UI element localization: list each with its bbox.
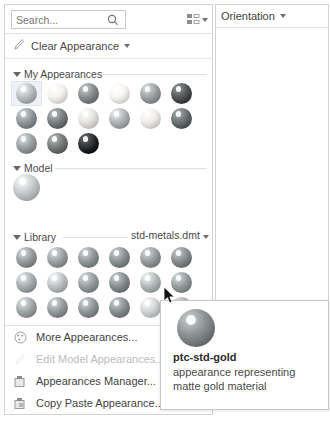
- section-label-model: Model: [24, 162, 53, 174]
- chevron-down-icon[interactable]: [203, 235, 209, 239]
- sphere-preview: [109, 108, 130, 129]
- sphere-preview: [13, 174, 40, 201]
- triangle-down-icon: [13, 72, 21, 77]
- sphere-preview: [78, 133, 99, 154]
- sphere-preview: [140, 272, 161, 293]
- clear-appearance-button[interactable]: Clear Appearance: [5, 34, 212, 59]
- sphere-preview: [78, 272, 99, 293]
- orientation-pane: [215, 28, 329, 311]
- appearance-swatch[interactable]: [42, 106, 73, 131]
- appearance-swatch[interactable]: [11, 81, 42, 106]
- section-header-library[interactable]: Library: [9, 230, 56, 244]
- sphere-preview: [16, 272, 37, 293]
- appearance-swatch[interactable]: [166, 245, 197, 270]
- model-grid[interactable]: [11, 175, 207, 200]
- sphere-preview: [16, 247, 37, 268]
- sphere-preview: [78, 108, 99, 129]
- view-layout-icon: [187, 11, 200, 29]
- appearance-swatch[interactable]: [42, 270, 73, 295]
- appearance-swatch[interactable]: [166, 270, 197, 295]
- tooltip-description: appearance representing matte gold mater…: [173, 365, 320, 393]
- tooltip-title: ptc-std-gold: [173, 351, 320, 363]
- search-box[interactable]: [11, 10, 126, 29]
- search-input[interactable]: [12, 11, 104, 28]
- sphere-preview: [16, 133, 37, 154]
- chevron-down-icon: [202, 18, 208, 22]
- view-options-button[interactable]: [187, 12, 211, 27]
- edit-brush-icon: [13, 352, 28, 367]
- search-icon[interactable]: [104, 11, 122, 28]
- appearance-swatch[interactable]: [11, 270, 42, 295]
- section-label-library: Library: [24, 231, 56, 243]
- sphere-preview: [16, 297, 37, 318]
- appearance-swatch[interactable]: [11, 131, 42, 156]
- appearance-swatch[interactable]: [73, 131, 104, 156]
- sphere-preview: [140, 83, 161, 104]
- appearance-swatch[interactable]: [166, 81, 197, 106]
- sphere-preview: [171, 272, 192, 293]
- appearance-swatch[interactable]: [135, 270, 166, 295]
- copy-paste-icon: [13, 396, 28, 411]
- sphere-preview: [140, 297, 161, 318]
- appearance-gallery-window: Clear Appearance My Appearances Model Li…: [0, 0, 330, 424]
- sphere-preview: [47, 108, 68, 129]
- triangle-down-icon: [13, 235, 21, 240]
- tooltip-swatch: [177, 309, 215, 347]
- sphere-preview: [47, 247, 68, 268]
- appearance-tooltip: ptc-std-gold appearance representing mat…: [160, 300, 329, 410]
- appearance-swatch[interactable]: [166, 106, 197, 131]
- appearance-swatch[interactable]: [11, 106, 42, 131]
- triangle-down-icon: [13, 166, 21, 171]
- appearance-swatch[interactable]: [135, 106, 166, 131]
- sphere-preview: [171, 247, 192, 268]
- appearance-swatch[interactable]: [42, 245, 73, 270]
- manager-icon: [13, 374, 28, 389]
- appearance-swatch[interactable]: [135, 81, 166, 106]
- brush-icon: [13, 37, 26, 55]
- appearance-swatch[interactable]: [11, 295, 42, 320]
- sphere-preview: [78, 297, 99, 318]
- appearance-swatch[interactable]: [42, 81, 73, 106]
- menu-item-label: Appearances Manager...: [36, 375, 156, 387]
- menu-item-label: Edit Model Appearances...: [36, 353, 164, 365]
- my-appearances-grid[interactable]: [11, 81, 207, 156]
- section-label-my-appearances: My Appearances: [24, 68, 102, 80]
- section-rule: [63, 237, 128, 238]
- appearance-swatch[interactable]: [104, 245, 135, 270]
- sphere-preview: [109, 272, 130, 293]
- appearance-swatch[interactable]: [42, 131, 73, 156]
- chevron-down-icon[interactable]: [280, 14, 286, 18]
- section-header-model[interactable]: Model: [9, 161, 53, 175]
- sphere-preview: [16, 83, 37, 104]
- appearance-swatch[interactable]: [104, 81, 135, 106]
- section-rule: [103, 74, 207, 75]
- appearance-swatch[interactable]: [42, 295, 73, 320]
- sphere-preview: [47, 133, 68, 154]
- chevron-down-icon[interactable]: [124, 44, 130, 48]
- sphere-preview: [171, 108, 192, 129]
- orientation-dropdown[interactable]: Orientation: [215, 4, 329, 28]
- sphere-preview: [78, 83, 99, 104]
- clear-appearance-label: Clear Appearance: [31, 40, 119, 52]
- appearance-swatch[interactable]: [73, 245, 104, 270]
- appearance-swatch[interactable]: [104, 270, 135, 295]
- sphere-preview: [109, 83, 130, 104]
- sphere-preview: [47, 297, 68, 318]
- sphere-preview: [16, 108, 37, 129]
- appearance-swatch[interactable]: [73, 81, 104, 106]
- appearance-swatch[interactable]: [104, 106, 135, 131]
- appearance-swatch[interactable]: [11, 245, 42, 270]
- appearance-swatch[interactable]: [135, 245, 166, 270]
- section-rule: [55, 168, 207, 169]
- sphere-preview: [78, 247, 99, 268]
- appearance-swatch[interactable]: [73, 106, 104, 131]
- menu-item-label: More Appearances...: [36, 331, 138, 343]
- section-header-my-appearances[interactable]: My Appearances: [9, 67, 102, 81]
- appearance-swatch[interactable]: [73, 295, 104, 320]
- palette-icon: [13, 330, 28, 345]
- appearance-swatch[interactable]: [73, 270, 104, 295]
- sphere-preview: [140, 247, 161, 268]
- appearance-swatch[interactable]: [104, 295, 135, 320]
- appearance-swatch[interactable]: [11, 175, 42, 200]
- library-file-label[interactable]: std-metals.dmt: [131, 229, 200, 241]
